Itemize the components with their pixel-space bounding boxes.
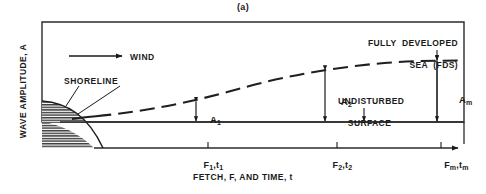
- x-axis-line: [94, 122, 464, 148]
- wind-label: WIND: [130, 52, 155, 62]
- amplitude-label-am-sub: m: [466, 99, 472, 106]
- amplitude-label-a1-sub: 1: [217, 119, 221, 126]
- figure-container: (a) WAVE AMPLITUDE, A FETCH, F, AND TIME…: [0, 0, 486, 194]
- amplitude-label-am: Am: [448, 83, 473, 117]
- y-axis-title: WAVE AMPLITUDE, A: [18, 21, 28, 161]
- x-tick-label-m: Fm,tm: [433, 150, 468, 181]
- amplitude-label-a2-sub: 2: [348, 101, 352, 108]
- x-tick-label-m-t-sub: m: [462, 164, 468, 171]
- x-axis-ticks: [208, 142, 441, 148]
- fds-label-line1: FULLY DEVELOPED: [368, 38, 458, 48]
- undisturbed-label-line2: SURFACE: [348, 118, 391, 128]
- x-tick-label-1: F1,t1: [193, 150, 224, 181]
- x-tick-label-2: F2,t2: [322, 150, 353, 181]
- amplitude-label-a2: A2: [330, 85, 352, 119]
- amplitude-label-a1: A1: [199, 103, 221, 137]
- x-tick-label-1-t-sub: 1: [219, 164, 223, 171]
- x-tick-label-2-t-sub: 2: [348, 164, 352, 171]
- panel-caption: (a): [0, 2, 486, 12]
- x-axis-title: FETCH, F, AND TIME, t: [0, 172, 486, 182]
- shoreline-label: SHORELINE: [64, 76, 118, 86]
- shoreline-leader-line: [66, 86, 120, 114]
- fully-developed-sea-label: FULLY DEVELOPED SEA (FDS): [325, 27, 458, 82]
- fds-label-line2: SEA (FDS): [409, 60, 458, 70]
